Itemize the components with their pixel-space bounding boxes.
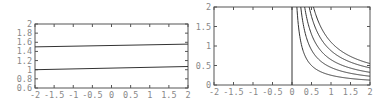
y-tick-label: 2 xyxy=(206,2,211,12)
x-tick-label: 2 xyxy=(185,90,190,100)
y-tick-label: 1.2 xyxy=(17,56,32,66)
y-tick-label: 1.4 xyxy=(17,46,32,56)
series-line xyxy=(292,0,370,72)
y-tick-label: 0.6 xyxy=(17,83,32,93)
x-tick-label: 0.5 xyxy=(304,87,319,97)
x-tick-label: -1.5 xyxy=(44,90,64,100)
y-tick-label: 2 xyxy=(27,19,32,29)
y-tick-label: 1 xyxy=(27,65,32,75)
x-tick-label: 1 xyxy=(328,87,333,97)
x-tick-label: -1 xyxy=(248,87,258,97)
y-tick-label: 1.8 xyxy=(17,28,32,38)
y-tick-label: 0.8 xyxy=(17,74,32,84)
series-line xyxy=(292,0,370,68)
x-tick-label: -0.5 xyxy=(82,90,102,100)
x-tick-label: 2 xyxy=(367,87,372,97)
y-tick-label: 0.5 xyxy=(196,61,211,71)
x-tick-label: -1 xyxy=(68,90,78,100)
x-tick-label: 1.5 xyxy=(343,87,358,97)
series-line xyxy=(35,67,188,70)
y-tick-label: 1 xyxy=(206,41,211,51)
x-tick-label: 1.5 xyxy=(161,90,176,100)
y-tick-label: 1.6 xyxy=(17,37,32,47)
y-tick-label: 1.5 xyxy=(196,22,211,32)
series-line xyxy=(292,0,370,80)
x-tick-label: -0.5 xyxy=(262,87,282,97)
right-plot: -2-1.5-1-0.500.511.5200.511.52 xyxy=(196,0,373,97)
charts-canvas: -2-1.5-1-0.500.511.520.60.811.21.41.61.8… xyxy=(0,0,388,104)
y-tick-label: 0 xyxy=(206,80,211,90)
series-line xyxy=(35,44,188,47)
plot-frame xyxy=(35,24,188,88)
x-tick-label: -1.5 xyxy=(223,87,243,97)
x-tick-label: 0.5 xyxy=(123,90,138,100)
left-plot: -2-1.5-1-0.500.511.520.60.811.21.41.61.8… xyxy=(17,19,191,100)
x-tick-label: 0 xyxy=(109,90,114,100)
x-tick-label: 1 xyxy=(147,90,152,100)
x-tick-label: 0 xyxy=(289,87,294,97)
